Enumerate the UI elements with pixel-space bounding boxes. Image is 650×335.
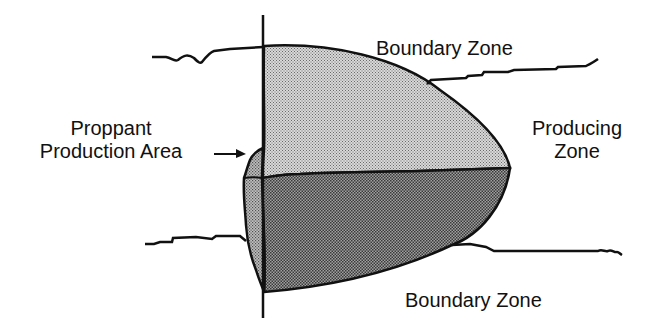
lower-boundary-line-right: [452, 244, 622, 255]
fracture-upper-half: [262, 45, 510, 178]
arrow-to-proppant-area: [214, 149, 246, 158]
proppant-line2: Production Area: [18, 140, 204, 163]
producing-zone-line1: Producing: [522, 117, 632, 140]
proppant-divider: [244, 177, 262, 178]
upper-boundary-line-left: [152, 47, 263, 63]
diagram-graphic: [0, 0, 650, 335]
boundary-zone-top-label: Boundary Zone: [376, 37, 513, 60]
producing-zone-line2: Zone: [522, 140, 632, 163]
proppant-line1: Proppant: [18, 117, 204, 140]
lower-boundary-line-left: [145, 236, 246, 244]
boundary-zone-bottom-label: Boundary Zone: [405, 289, 542, 312]
upper-boundary-line-right: [427, 59, 598, 84]
proppant-production-area-label: Proppant Production Area: [18, 117, 204, 163]
proppant-production-area: [244, 148, 265, 292]
fracture-lower-half: [262, 168, 510, 292]
producing-zone-label: Producing Zone: [522, 117, 632, 163]
fracture-diagram: Boundary Zone Producing Zone Proppant Pr…: [0, 0, 650, 335]
